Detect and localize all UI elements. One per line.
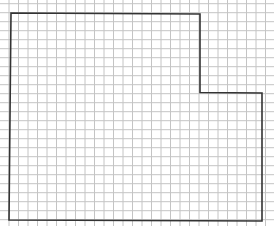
paper-background [0,0,274,226]
graph-paper-canvas [0,0,274,226]
